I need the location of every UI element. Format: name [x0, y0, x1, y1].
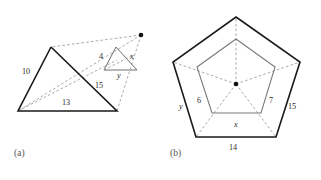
spoke-lower-left [196, 84, 236, 137]
spoke-upper-right [236, 62, 300, 84]
label-inner-left-side: 6 [197, 96, 201, 105]
spoke-lower-right [236, 84, 276, 137]
outer-pentagon [173, 17, 300, 137]
caption-panel-b: (b) [170, 148, 181, 159]
label-small-right-side: x [129, 52, 134, 61]
caption-panel-a: (a) [14, 148, 25, 159]
label-outer-right-side: 15 [288, 102, 296, 111]
label-small-left-side: 4 [99, 52, 103, 61]
panel-a-projection-lines [18, 35, 141, 111]
figure-container: 10 13 15 4 x y (a) [0, 0, 321, 180]
panel-a-group: 10 13 15 4 x y (a) [14, 33, 143, 159]
label-outer-bottom-side: 14 [229, 143, 237, 152]
label-large-left-side: 10 [22, 67, 30, 76]
label-large-bottom-side: 13 [62, 98, 70, 107]
label-inner-right-side: 7 [269, 96, 273, 105]
pentagon-center-dot [234, 82, 239, 87]
similarity-center-dot [139, 33, 144, 38]
label-inner-bottom-side: x [233, 120, 238, 129]
panel-b-group: 14 15 y x 6 7 (b) [170, 17, 300, 159]
projection-line-bottom-left [18, 35, 141, 111]
label-outer-left-side: y [178, 102, 183, 111]
label-small-bottom-side: y [116, 71, 121, 80]
spoke-upper-left [173, 62, 236, 84]
label-large-hypotenuse: 15 [95, 81, 103, 90]
projection-line-apex [51, 35, 141, 47]
